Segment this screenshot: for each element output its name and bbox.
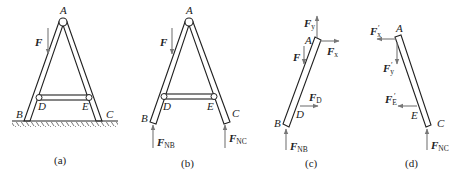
force-label-fd: FD: [308, 91, 322, 105]
point-label-c: C: [232, 107, 240, 119]
caption-d: (d): [405, 157, 418, 170]
hinge-a: [185, 18, 193, 26]
point-label-d: D: [162, 100, 171, 112]
point-label-c: C: [437, 117, 445, 129]
caption-c: (c): [305, 157, 318, 170]
force-label-fx: Fx: [326, 45, 338, 59]
force-label-fnb: FNB: [289, 140, 308, 154]
point-label-e: E: [410, 109, 418, 121]
force-label-fnc: FNC: [430, 139, 449, 153]
force-label-fnb: FNB: [156, 136, 175, 150]
force-label-fy-prime: Fy′: [382, 61, 394, 76]
point-label-a: A: [59, 4, 67, 16]
force-label-f: F: [292, 51, 301, 63]
point-label-e: E: [206, 100, 214, 112]
force-label-f: F: [34, 36, 43, 48]
point-label-b: B: [141, 112, 148, 124]
force-label-fx-prime: Fx′: [369, 24, 381, 39]
panel-a: F A B D E C (a): [12, 4, 118, 167]
ground: [12, 121, 118, 127]
point-label-a: A: [304, 34, 312, 46]
point-label-d: D: [37, 100, 46, 112]
panel-b: F FNB FNC A B D E C (b): [141, 4, 247, 170]
point-label-c: C: [106, 108, 114, 120]
point-label-a: A: [395, 22, 403, 34]
force-label-fy: Fy: [303, 17, 315, 31]
crossbar-de: [161, 94, 217, 100]
caption-a: (a): [54, 154, 67, 167]
force-label-fe-prime: FE′: [384, 92, 397, 107]
point-label-b: B: [16, 108, 23, 120]
hinge-a: [59, 18, 67, 26]
panel-c: Fy Fx F FD FNB A B D (c): [274, 16, 339, 170]
point-label-e: E: [81, 100, 89, 112]
caption-b: (b): [181, 157, 194, 170]
point-label-a: A: [185, 4, 193, 16]
point-label-d: D: [295, 108, 304, 120]
force-label-f: F: [159, 36, 168, 48]
force-label-fnc: FNC: [228, 132, 247, 146]
panel-d: Fx′ Fy′ FE′ FNC A E C (d): [369, 22, 449, 170]
statics-diagram: F A B D E C (a) F FNB FNC A B D E C (b): [0, 0, 458, 182]
point-label-b: B: [274, 117, 281, 129]
